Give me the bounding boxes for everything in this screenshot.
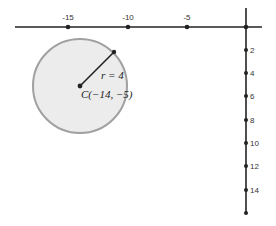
center-label: C(−14, −5) — [81, 88, 133, 101]
origin-point — [244, 25, 249, 30]
y-tick-label: 14 — [250, 186, 259, 195]
circle-edge-point — [112, 50, 116, 54]
y-axis-end-point — [244, 211, 248, 215]
x-tick-label: -15 — [62, 13, 74, 22]
radius-label: r = 4 — [101, 69, 124, 81]
y-tick-label: 8 — [250, 116, 255, 125]
y-tick-label: 2 — [250, 46, 255, 55]
y-tick-label: 10 — [250, 139, 259, 148]
y-tick-label: 4 — [250, 69, 255, 78]
x-tick-label: -5 — [183, 13, 191, 22]
y-tick-label: 6 — [250, 92, 255, 101]
coordinate-diagram: -15 -10 -5 2 4 6 8 10 12 14 r = 4 — [0, 0, 276, 226]
y-tick-label: 12 — [250, 162, 259, 171]
x-tick-label: -10 — [122, 13, 134, 22]
